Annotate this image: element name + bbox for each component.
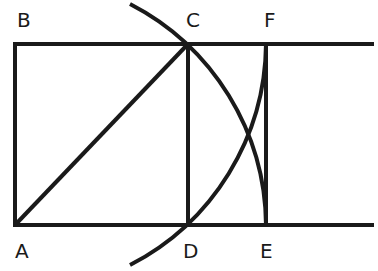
- label-d: D: [183, 239, 198, 263]
- label-f: F: [264, 8, 276, 32]
- diagonal-ac: [15, 44, 188, 225]
- label-a: A: [15, 239, 29, 263]
- label-c: C: [186, 8, 200, 32]
- label-b: B: [17, 8, 31, 32]
- arc-c-to-e: [130, 4, 266, 225]
- label-e: E: [260, 239, 273, 263]
- arc-d-to-f: [130, 44, 266, 265]
- diagram-canvas: B C F A D E: [0, 0, 378, 271]
